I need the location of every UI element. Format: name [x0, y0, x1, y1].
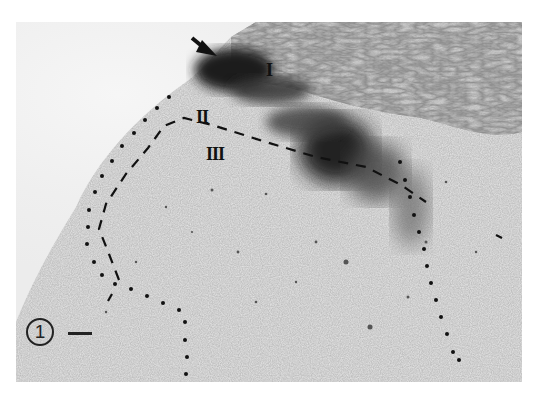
figure-number: 1 [35, 321, 46, 343]
dashed-layer-boundary [99, 118, 426, 280]
figure-number-badge: 1 [26, 318, 54, 346]
layer-label-i: I [266, 60, 272, 81]
dotted-boundary-outer [85, 95, 189, 376]
arrow-icon [192, 38, 217, 56]
micrograph-plate: I II III 1 [16, 22, 522, 382]
dash-mark [496, 235, 502, 238]
layer-label-ii: II [196, 107, 208, 128]
scale-bar [68, 332, 92, 335]
layer-label-iii: III [206, 144, 224, 165]
dash-mark [108, 294, 112, 301]
